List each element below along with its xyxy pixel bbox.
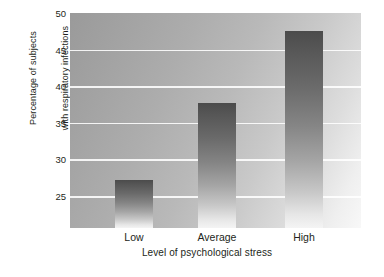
y-axis-label-line-1: Percentage of subjects: [28, 0, 39, 163]
bar-average: [198, 103, 236, 228]
bar-high: [285, 31, 323, 228]
y-tick-label: 30: [44, 155, 66, 165]
bar-chart-figure: Percentage of subjects with respiratory …: [0, 0, 384, 277]
x-axis-label: Level of psychological stress: [0, 247, 384, 259]
x-axis-ticks: Low Average High: [70, 231, 361, 247]
bar-low: [115, 180, 153, 228]
x-tick-label-high: High: [293, 231, 315, 244]
y-tick-label: 45: [44, 46, 66, 56]
y-axis-label: Percentage of subjects with respiratory …: [7, 0, 37, 163]
y-tick-label: 25: [44, 192, 66, 202]
y-tick-label: 40: [44, 82, 66, 92]
y-axis-ticks: 50 45 40 35 30 25: [42, 0, 66, 277]
y-tick-label: 35: [44, 119, 66, 129]
plot-area: [70, 13, 361, 228]
x-tick-label-low: Low: [124, 231, 143, 244]
x-tick-label-average: Average: [198, 231, 237, 244]
y-tick-label: 50: [44, 9, 66, 19]
